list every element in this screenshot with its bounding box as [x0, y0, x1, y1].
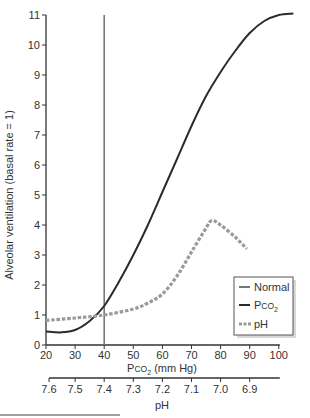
x-tick-label: 30 [69, 349, 81, 361]
y-tick-label: 8 [34, 99, 40, 111]
x-tick-label: 100 [270, 349, 288, 361]
x-tick-label: 40 [98, 349, 110, 361]
legend: Normal PCO2 pH [234, 277, 296, 338]
x-tick-label: 80 [214, 349, 226, 361]
ph-tick-label: 7.6 [41, 383, 56, 395]
y-tick-label: 10 [28, 39, 40, 51]
x-tick-label: 50 [127, 349, 139, 361]
x-tick-label: 70 [185, 349, 197, 361]
x-tick-label: 60 [156, 349, 168, 361]
y-tick-label: 1 [34, 309, 40, 321]
y-tick-label: 4 [34, 219, 40, 231]
x-axis-label: PCO2 (mm Hg) [127, 362, 197, 376]
ph-tick-label: 7.1 [184, 383, 199, 395]
ph-tick-label: 7.2 [155, 383, 170, 395]
ph-tick-label: 7.4 [97, 383, 112, 395]
ph-axis-label: pH [155, 399, 169, 411]
x-tick-label: 20 [40, 349, 52, 361]
y-axis-label: Alveolar ventilation (basal rate = 1) [3, 110, 15, 280]
y-tick-label: 6 [34, 159, 40, 171]
x-tick-label: 90 [244, 349, 256, 361]
chart-canvas: 01234567891011 2030405060708090100 7.67.… [0, 0, 310, 418]
ph-axis: 7.67.57.47.37.27.17.06.9 [41, 378, 279, 395]
y-tick-label: 9 [34, 69, 40, 81]
ph-tick-label: 7.5 [67, 383, 82, 395]
legend-normal-label: Normal [254, 281, 289, 293]
y-tick-label: 7 [34, 129, 40, 141]
ph-tick-label: 7.0 [213, 383, 228, 395]
ph-curve [46, 220, 247, 320]
y-tick-label: 3 [34, 249, 40, 261]
legend-ph-label: pH [254, 318, 268, 330]
ph-tick-label: 7.3 [126, 383, 141, 395]
ph-tick-label: 6.9 [242, 383, 257, 395]
y-tick-label: 2 [34, 279, 40, 291]
y-tick-label: 5 [34, 189, 40, 201]
x-axis: 2030405060708090100 [40, 345, 288, 361]
y-tick-label: 11 [29, 9, 40, 21]
y-axis: 01234567891011 [28, 9, 46, 351]
